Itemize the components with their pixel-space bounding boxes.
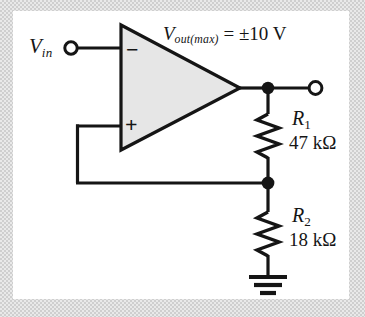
output-terminal-circle bbox=[309, 82, 322, 95]
resistor-r1-ref-label: R1 bbox=[292, 108, 311, 131]
output-voltage-value: ±10 V bbox=[239, 23, 287, 44]
resistor-r1-zigzag bbox=[257, 114, 279, 158]
ground-symbol bbox=[249, 277, 287, 293]
resistor-r2-value-label: 18 kΩ bbox=[289, 230, 336, 249]
opamp-noninverting-input-label: + bbox=[125, 114, 138, 136]
resistor-r1-index: 1 bbox=[304, 117, 311, 132]
input-terminal-circle bbox=[65, 42, 77, 54]
input-voltage-symbol: V bbox=[29, 34, 42, 58]
input-voltage-subscript: in bbox=[42, 45, 53, 60]
output-voltage-subscript: out(max) bbox=[175, 33, 219, 46]
figure-canvas: Vin Vout(max) = ±10 V − + R1 47 kΩ R2 18… bbox=[0, 0, 365, 317]
output-voltage-spec-label: Vout(max) = ±10 V bbox=[163, 24, 286, 46]
output-voltage-equals: = bbox=[219, 23, 239, 44]
resistor-r2-ref-label: R2 bbox=[292, 205, 311, 228]
resistor-r2-zigzag bbox=[257, 212, 279, 256]
resistor-r2-index: 2 bbox=[304, 214, 311, 229]
resistor-r2-ref: R bbox=[292, 204, 304, 226]
resistor-r1-value-label: 47 kΩ bbox=[289, 133, 336, 152]
opamp-inverting-input-label: − bbox=[126, 39, 139, 61]
input-voltage-label: Vin bbox=[29, 36, 52, 59]
resistor-r1-ref: R bbox=[292, 107, 304, 129]
circuit-schematic bbox=[0, 0, 365, 317]
output-voltage-symbol: V bbox=[163, 23, 175, 44]
